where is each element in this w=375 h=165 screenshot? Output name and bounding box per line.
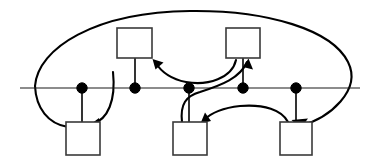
event-dot-2[interactable] — [130, 83, 140, 93]
event-dot-1[interactable] — [77, 83, 87, 93]
node-link-diagram — [0, 0, 375, 165]
box-bottom-left[interactable] — [66, 122, 100, 155]
connector-arc-topright-to-topleft — [153, 59, 237, 83]
arc-right-to-bottom-middle-path — [204, 106, 288, 122]
box-top-left[interactable] — [117, 28, 152, 58]
box-top-right[interactable] — [226, 28, 260, 58]
connector-arc-left-to-bottom-left — [35, 72, 114, 128]
event-dot-5[interactable] — [291, 83, 301, 93]
connector-arc-right-to-bottom-middle — [201, 106, 289, 124]
event-dot-4[interactable] — [238, 83, 248, 93]
diagram-canvas — [0, 0, 375, 165]
box-bottom-middle[interactable] — [173, 122, 207, 155]
arc-topright-to-topleft-path — [155, 60, 236, 83]
event-dot-3[interactable] — [184, 83, 194, 93]
arc-left-to-bottom-left-path-b — [92, 72, 114, 124]
box-bottom-right[interactable] — [280, 122, 312, 155]
arc-topright-to-topleft-arrowhead — [153, 59, 164, 70]
arc-left-to-bottom-left-path-a — [35, 86, 68, 127]
